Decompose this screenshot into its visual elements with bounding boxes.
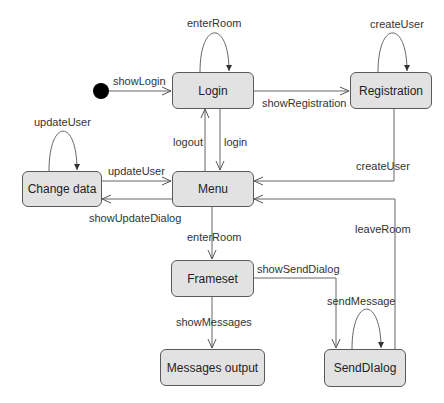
label-enterRoom: enterRoom: [187, 232, 241, 243]
state-messages-output[interactable]: Messages output: [160, 349, 265, 386]
label-sendMessage: sendMessage: [327, 296, 396, 307]
state-login[interactable]: Login: [172, 72, 254, 109]
label-createUser: createUser: [356, 161, 410, 172]
initial-state-dot: [93, 83, 109, 99]
label-enterRoom-loop: enterRoom: [187, 18, 241, 29]
state-messages-output-label: Messages output: [167, 361, 258, 375]
state-frameset[interactable]: Frameset: [171, 260, 254, 297]
label-updateUser: updateUser: [108, 166, 165, 177]
label-showMessages: showMessages: [176, 317, 252, 328]
label-login: login: [224, 137, 247, 148]
label-showSendDialog: showSendDialog: [257, 264, 340, 275]
state-change-data-label: Change data: [28, 182, 97, 196]
state-registration-label: Registration: [359, 84, 423, 98]
label-leaveRoom: leaveRoom: [355, 224, 411, 235]
label-showLogin: showLogin: [113, 76, 166, 87]
label-createUser-loop: createUser: [370, 19, 424, 30]
state-frameset-label: Frameset: [187, 272, 238, 286]
label-showUpdateDialog: showUpdateDialog: [89, 213, 181, 224]
state-menu[interactable]: Menu: [172, 171, 254, 207]
state-change-data[interactable]: Change data: [22, 171, 102, 207]
state-send-dialog[interactable]: SendDIalog: [324, 349, 406, 387]
state-send-dialog-label: SendDIalog: [334, 361, 397, 375]
state-menu-label: Menu: [198, 182, 228, 196]
state-registration[interactable]: Registration: [350, 72, 432, 109]
label-updateUser-loop: updateUser: [34, 117, 91, 128]
label-logout: logout: [173, 137, 203, 148]
state-login-label: Login: [198, 84, 227, 98]
label-showRegistration: showRegistration: [262, 98, 346, 109]
